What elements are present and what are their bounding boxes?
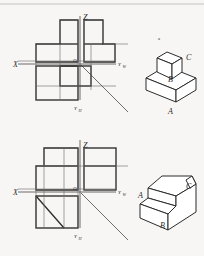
label-axis-yw-sub-bottom: W <box>123 192 127 197</box>
label-axis-yw-bottom: Y <box>118 190 122 195</box>
side-view-outline-bottom <box>84 148 116 190</box>
label-axis-x-bottom: X <box>12 188 19 197</box>
figure-bottom: X Z Y W Y H O A B <box>0 0 204 256</box>
drawing-sheet: X Z Y W Y H O C B A a <box>0 0 204 256</box>
top-view-outline-bottom <box>36 196 78 228</box>
label-axis-yh-sub-bottom: H <box>78 236 83 241</box>
axis-yh-bisector-bottom <box>81 193 128 240</box>
solid-bottom-label-A: A <box>137 191 143 200</box>
label-axis-yh-bottom: Y <box>74 234 78 239</box>
front-view-outline-bottom <box>36 148 78 190</box>
solid-bottom: A B C <box>137 176 196 230</box>
solid-bottom-label-C: C <box>186 182 192 191</box>
label-origin-bottom: O <box>73 186 77 191</box>
top-view-bottom <box>36 196 78 228</box>
top-view-slant-line-bottom <box>36 196 64 228</box>
side-view-bottom <box>84 148 116 190</box>
solid-bottom-label-B: B <box>160 221 165 230</box>
label-axis-z-bottom: Z <box>83 141 88 150</box>
front-view-bottom <box>36 148 78 190</box>
